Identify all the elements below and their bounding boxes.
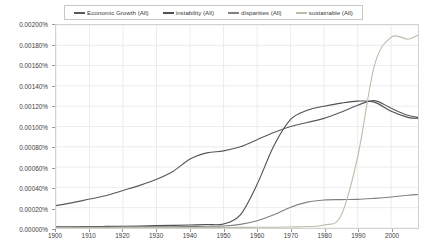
x-axis-tick-mark [257, 229, 258, 232]
x-axis-tick-mark [55, 229, 56, 232]
x-axis: 1900191019201930194019501960197019801990… [0, 0, 429, 249]
x-axis-tick-mark [89, 229, 90, 232]
x-axis-tick-label: 1910 [82, 232, 96, 239]
chart-container: Economic Growth (All)instability (All)di… [0, 0, 429, 249]
x-axis-tick-mark [358, 229, 359, 232]
x-axis-tick-mark [392, 229, 393, 232]
x-axis-tick-label: 2000 [385, 232, 399, 239]
x-axis-tick-mark [122, 229, 123, 232]
x-axis-tick-label: 1960 [250, 232, 264, 239]
x-axis-tick-mark [224, 229, 225, 232]
x-axis-tick-mark [190, 229, 191, 232]
x-axis-tick-label: 1990 [351, 232, 365, 239]
x-axis-tick-mark [291, 229, 292, 232]
x-axis-tick-label: 1970 [284, 232, 298, 239]
x-axis-tick-label: 1920 [115, 232, 129, 239]
x-axis-tick-label: 1950 [216, 232, 230, 239]
x-axis-tick-mark [156, 229, 157, 232]
x-axis-tick-label: 1940 [183, 232, 197, 239]
x-axis-tick-label: 1900 [48, 232, 62, 239]
x-axis-tick-mark [325, 229, 326, 232]
x-axis-tick-label: 1980 [318, 232, 332, 239]
x-axis-tick-label: 1930 [149, 232, 163, 239]
